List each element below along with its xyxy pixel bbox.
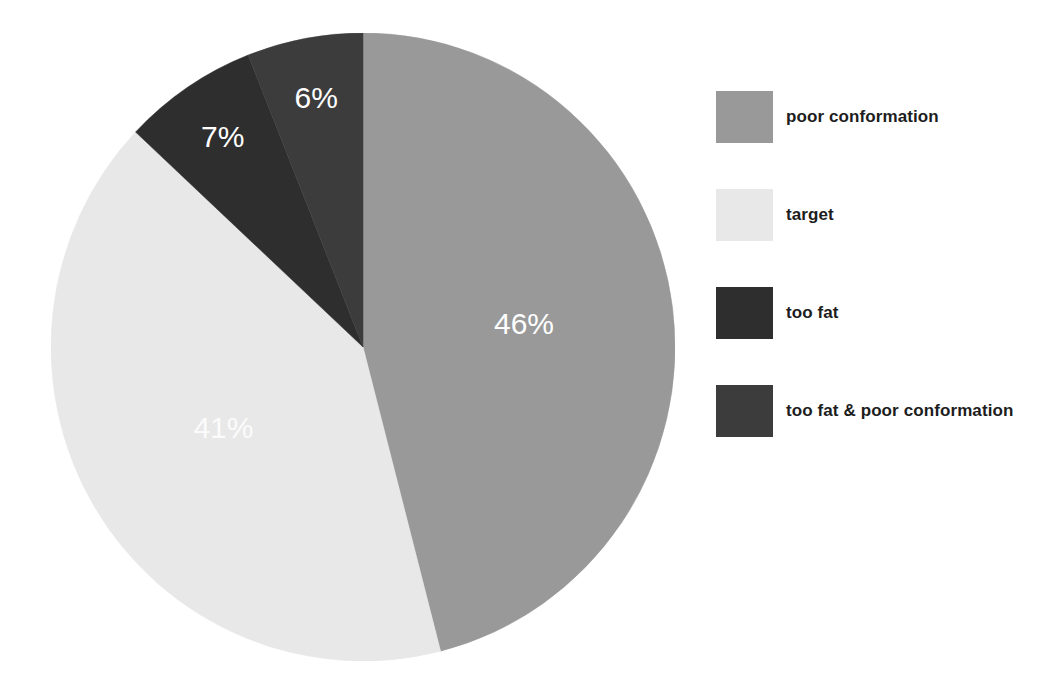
- legend-item-too-fat-and-poor-conformation[interactable]: too fat & poor conformation: [716, 385, 1026, 437]
- legend-swatch-icon-poor-conformation: [716, 91, 773, 143]
- pie-slice-label: 7%: [201, 120, 244, 153]
- legend-label-target: target: [786, 205, 834, 225]
- pie-chart-figure: 46%41%7%6% poor conformation target too …: [0, 0, 1037, 695]
- chart-legend: poor conformation target too fat too fat…: [716, 91, 1026, 437]
- legend-swatch-icon-too-fat: [716, 287, 773, 339]
- pie-slice-label: 46%: [494, 307, 554, 340]
- legend-label-poor-conformation: poor conformation: [786, 107, 939, 127]
- legend-swatch-icon-target: [716, 189, 773, 241]
- legend-label-too-fat-and-poor-conformation: too fat & poor conformation: [786, 401, 1013, 421]
- legend-item-target[interactable]: target: [716, 189, 1026, 241]
- pie-chart-svg: 46%41%7%6%: [51, 33, 675, 661]
- legend-item-poor-conformation[interactable]: poor conformation: [716, 91, 1026, 143]
- legend-label-too-fat: too fat: [786, 303, 839, 323]
- legend-swatch-icon-too-fat-and-poor-conformation: [716, 385, 773, 437]
- pie-slice-group: [51, 33, 675, 661]
- pie-chart-plot-area: 46%41%7%6%: [51, 33, 675, 661]
- pie-slice-label: 41%: [193, 411, 253, 444]
- legend-item-too-fat[interactable]: too fat: [716, 287, 1026, 339]
- pie-slice-label: 6%: [295, 81, 338, 114]
